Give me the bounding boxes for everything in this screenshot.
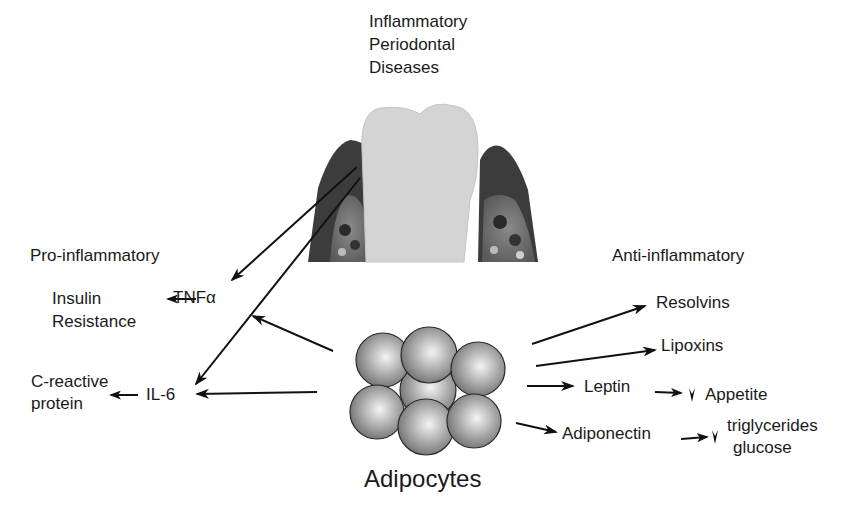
- crp-label-2: protein: [31, 394, 83, 414]
- title-line-1: Inflammatory: [369, 12, 467, 32]
- glucose-label: glucose: [733, 438, 792, 458]
- arrow-adipo-to-il6: [197, 392, 317, 394]
- anti-inflammatory-heading: Anti-inflammatory: [612, 246, 744, 266]
- pro-inflammatory-heading: Pro-inflammatory: [30, 246, 159, 266]
- arrow-adipo-to-tnfa: [253, 316, 333, 351]
- triglycerides-label: triglycerides: [727, 416, 818, 436]
- adiponectin-label: Adiponectin: [562, 424, 651, 444]
- adipocytes-label: Adipocytes: [364, 465, 481, 493]
- arrow-adipo-to-lipids: [681, 437, 707, 439]
- il6-label: IL-6: [146, 385, 175, 405]
- arrow-to-adiponectin: [516, 423, 556, 432]
- lipoxins-label: Lipoxins: [661, 336, 723, 356]
- arrow-gum-to-il6: [196, 178, 360, 384]
- tooth-illustration: [308, 104, 538, 262]
- arrow-to-lipoxins: [536, 350, 655, 366]
- adipocyte-cluster: [350, 327, 505, 455]
- appetite-label: Appetite: [705, 385, 767, 405]
- resolvins-label: Resolvins: [656, 293, 730, 313]
- title-line-3: Diseases: [369, 58, 439, 78]
- leptin-label: Leptin: [584, 377, 630, 397]
- insulin-label-1: Insulin: [52, 289, 101, 309]
- down-arrow-appetite: [689, 388, 695, 402]
- tooth-crown: [362, 104, 478, 262]
- down-arrow-lipids: [712, 430, 718, 444]
- insulin-label-2: Resistance: [52, 312, 136, 332]
- tnfa-label: TNFα: [173, 288, 216, 308]
- title-line-2: Periodontal: [369, 35, 455, 55]
- arrow-leptin-to-appetite: [655, 392, 681, 393]
- crp-label-1: C-reactive: [31, 372, 108, 392]
- arrow-to-resolvins: [532, 306, 645, 344]
